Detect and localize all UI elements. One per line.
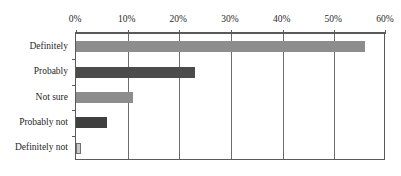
- gridline-40pct: [283, 34, 284, 159]
- x-axis-tick-0: [76, 30, 77, 34]
- gridline-50pct: [334, 34, 335, 159]
- category-label-2: Not sure: [36, 91, 68, 102]
- horizontal-bar-chart: 0%10%20%30%40%50%60% DefinitelyProbablyN…: [0, 0, 401, 176]
- x-tick-label-0: 0%: [69, 14, 82, 25]
- x-tick-label-5: 50%: [325, 14, 342, 25]
- category-label-4: Definitely not: [15, 142, 68, 153]
- bar-definitely: [76, 41, 365, 52]
- category-label-3: Probably not: [19, 116, 68, 127]
- category-axis-tick-2: [72, 110, 76, 111]
- x-tick-label-6: 60%: [376, 14, 393, 25]
- x-axis-tick-labels: 0%10%20%30%40%50%60%: [0, 14, 401, 27]
- bar-probably: [76, 67, 195, 78]
- x-tick-label-3: 30%: [221, 14, 238, 25]
- bar-not-sure: [76, 92, 133, 103]
- gridline-30pct: [231, 34, 232, 159]
- x-tick-label-4: 40%: [273, 14, 290, 25]
- bar-probably-not: [76, 117, 107, 128]
- category-axis-tick-1: [72, 85, 76, 86]
- category-axis-tick-3: [72, 136, 76, 137]
- x-tick-label-1: 10%: [118, 14, 135, 25]
- category-label-1: Probably: [34, 66, 68, 77]
- x-axis-tick-6: [385, 30, 386, 34]
- category-axis-tick-0: [72, 59, 76, 60]
- category-axis-labels: DefinitelyProbablyNot sureProbably notDe…: [0, 33, 72, 160]
- gridline-20pct: [179, 34, 180, 159]
- bar-definitely-not: [76, 143, 81, 154]
- category-label-0: Definitely: [29, 40, 68, 51]
- plot-area: [75, 33, 385, 160]
- x-tick-label-2: 20%: [170, 14, 187, 25]
